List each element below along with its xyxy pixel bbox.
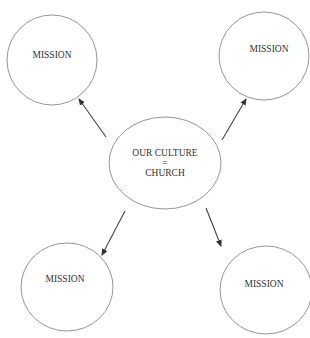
center-node-culture-church: OUR CULTURE = CHURCH — [109, 117, 221, 209]
mission-node-bottom-left: MISSION — [21, 243, 113, 331]
center-label-line-2: = — [162, 158, 167, 168]
mission-label-bottom-left: MISSION — [45, 274, 84, 284]
mission-node-bottom-right: MISSION — [220, 246, 310, 334]
arrow-to-top-right — [222, 99, 246, 140]
mission-label-top-right: MISSION — [249, 44, 288, 54]
mission-node-top-right: MISSION — [219, 12, 309, 100]
mission-diagram: MISSION MISSION OUR CULTURE = CHURCH MIS… — [0, 0, 310, 338]
center-label-line-1: OUR CULTURE — [132, 148, 198, 158]
arrow-to-bottom-left — [102, 211, 125, 255]
arrow-to-top-left — [79, 99, 106, 137]
mission-label-top-left: MISSION — [32, 50, 71, 60]
mission-label-bottom-right: MISSION — [244, 279, 283, 289]
arrow-to-bottom-right — [206, 208, 221, 246]
center-label-line-3: CHURCH — [145, 168, 185, 178]
mission-node-top-left: MISSION — [7, 15, 97, 105]
